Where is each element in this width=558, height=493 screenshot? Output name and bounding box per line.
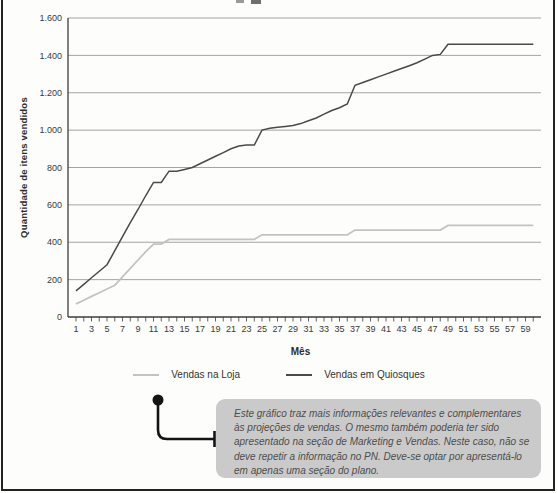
svg-text:45: 45 bbox=[412, 324, 422, 334]
svg-text:43: 43 bbox=[396, 324, 406, 334]
svg-text:1.200: 1.200 bbox=[39, 88, 62, 98]
svg-text:1.600: 1.600 bbox=[39, 13, 62, 23]
svg-text:59: 59 bbox=[520, 324, 530, 334]
svg-text:37: 37 bbox=[350, 324, 360, 334]
svg-text:55: 55 bbox=[489, 324, 499, 334]
callout-box: Este gráfico traz mais informações relev… bbox=[216, 399, 541, 478]
svg-text:51: 51 bbox=[458, 324, 468, 334]
svg-text:29: 29 bbox=[288, 324, 298, 334]
svg-text:7: 7 bbox=[120, 324, 125, 334]
x-axis-title: Mês bbox=[68, 346, 533, 357]
svg-text:11: 11 bbox=[149, 324, 158, 334]
svg-text:17: 17 bbox=[195, 324, 205, 334]
sales-projection-line-chart: 02004006008001.0001.2001.4001.6001357911… bbox=[0, 0, 558, 342]
svg-text:41: 41 bbox=[381, 324, 391, 334]
svg-text:15: 15 bbox=[179, 324, 189, 334]
figure-frame-bottom bbox=[1, 489, 555, 491]
svg-text:27: 27 bbox=[272, 324, 282, 334]
callout-connector bbox=[145, 392, 225, 458]
svg-text:31: 31 bbox=[303, 324, 313, 334]
legend-swatch-vendas-na-loja bbox=[133, 374, 159, 376]
svg-text:57: 57 bbox=[505, 324, 515, 334]
svg-text:49: 49 bbox=[443, 324, 453, 334]
svg-text:13: 13 bbox=[164, 324, 174, 334]
legend-swatch-vendas-em-quiosques bbox=[286, 374, 312, 376]
svg-text:47: 47 bbox=[427, 324, 437, 334]
svg-text:800: 800 bbox=[47, 163, 62, 173]
svg-text:200: 200 bbox=[47, 275, 62, 285]
svg-text:19: 19 bbox=[210, 324, 220, 334]
svg-text:33: 33 bbox=[319, 324, 329, 334]
svg-text:1: 1 bbox=[73, 324, 78, 334]
svg-text:53: 53 bbox=[474, 324, 484, 334]
svg-text:23: 23 bbox=[241, 324, 251, 334]
legend-label-vendas-em-quiosques: Vendas em Quiosques bbox=[324, 369, 425, 380]
figure-page: 02004006008001.0001.2001.4001.6001357911… bbox=[0, 0, 558, 493]
chart-legend: Vendas na Loja Vendas em Quiosques bbox=[0, 369, 558, 380]
svg-text:9: 9 bbox=[135, 324, 140, 334]
svg-text:39: 39 bbox=[365, 324, 375, 334]
callout-line bbox=[158, 404, 214, 439]
svg-text:1.400: 1.400 bbox=[39, 51, 62, 61]
svg-text:35: 35 bbox=[334, 324, 344, 334]
svg-text:3: 3 bbox=[89, 324, 94, 334]
svg-text:0: 0 bbox=[57, 312, 62, 322]
callout-text: Este gráfico traz mais informações relev… bbox=[234, 407, 530, 478]
svg-text:1.000: 1.000 bbox=[39, 125, 62, 135]
callout-dot bbox=[153, 395, 164, 406]
legend-label-vendas-na-loja: Vendas na Loja bbox=[171, 369, 240, 380]
svg-text:21: 21 bbox=[226, 324, 236, 334]
svg-text:600: 600 bbox=[47, 200, 62, 210]
svg-text:25: 25 bbox=[257, 324, 267, 334]
svg-text:5: 5 bbox=[104, 324, 109, 334]
y-axis-title: Quantidade de itens vendidos bbox=[18, 88, 29, 248]
svg-text:400: 400 bbox=[47, 237, 62, 247]
